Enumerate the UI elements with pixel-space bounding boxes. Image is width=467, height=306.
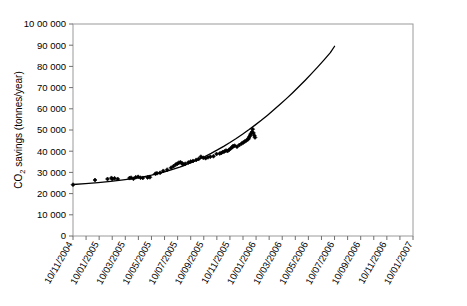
y-tick-label: 10 00 000	[24, 18, 66, 29]
x-axis-labels: 10/11/200410/01/200510/03/200510/05/2005…	[42, 240, 415, 287]
y-tick-label: 80 000	[37, 61, 66, 72]
y-axis: 10 00 00090 00080 00070 00060 00050 0004…	[24, 18, 73, 241]
y-axis-title: CO2 savings (tonnes/year)	[13, 71, 27, 189]
y-axis-title-suffix: savings (tonnes/year)	[13, 71, 24, 169]
y-tick-label: 10 000	[37, 209, 66, 220]
y-tick-label: 50 000	[37, 124, 66, 135]
y-tick-label: 40 000	[37, 146, 66, 157]
y-tick-label: 60 000	[37, 103, 66, 114]
plot-area-border	[73, 24, 413, 236]
co2-savings-scatter-chart: 10 00 00090 00080 00070 00060 00050 0004…	[0, 0, 467, 306]
y-tick-label: 90 000	[37, 40, 66, 51]
y-axis-title-text: CO2 savings (tonnes/year)	[13, 71, 27, 189]
x-axis-ticks	[73, 236, 413, 240]
y-tick-label: 20 000	[37, 188, 66, 199]
y-tick-label: 30 000	[37, 167, 66, 178]
plot-frame	[73, 24, 413, 236]
y-tick-label: 70 000	[37, 82, 66, 93]
y-axis-title-prefix: CO	[13, 174, 24, 189]
chart-figure: 10 00 00090 00080 00070 00060 00050 0004…	[0, 0, 467, 306]
